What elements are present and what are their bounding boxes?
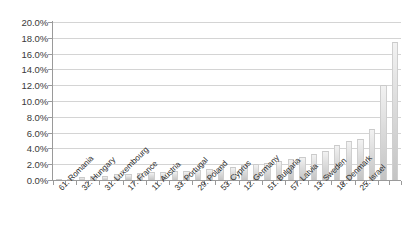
x-tick-mark [123,181,124,185]
x-tick-mark [355,181,356,185]
x-tick-mark [99,181,100,185]
y-tick-label: 10.0% [22,96,48,107]
y-tick-label: 16.0% [22,48,48,59]
x-tick-mark [146,181,147,185]
y-tick-label: 0.0% [27,175,48,186]
x-tick-mark [401,181,402,185]
bar-series [53,22,401,180]
x-tick-mark [308,181,309,185]
x-tick-mark [389,181,390,185]
y-tick-label: 6.0% [27,127,48,138]
x-tick-mark [285,181,286,185]
x-tick-mark [169,181,170,185]
y-tick-label: 4.0% [27,143,48,154]
y-tick-label: 20.0% [22,17,48,28]
y-tick-label: 2.0% [27,159,48,170]
y-tick-label: 18.0% [22,32,48,43]
x-tick-mark [378,181,379,185]
x-tick-mark [53,181,54,185]
plot-area [53,22,401,180]
x-tick-mark [76,181,77,185]
y-axis-labels: 0.0%2.0%4.0%6.0%8.0%10.0%12.0%14.0%16.0%… [0,15,52,181]
x-tick-mark [239,181,240,185]
x-axis-labels: 61. Romania32. Hungary31. Luxembourg17. … [0,186,408,250]
x-tick-mark [192,181,193,185]
x-tick-mark [331,181,332,185]
x-tick-mark [215,181,216,185]
y-axis-line [52,21,53,181]
y-tick-label: 14.0% [22,64,48,75]
y-tick-label: 12.0% [22,80,48,91]
bar-chart: 0.0%2.0%4.0%6.0%8.0%10.0%12.0%14.0%16.0%… [0,0,408,250]
x-tick-mark [262,181,263,185]
bar [392,42,398,180]
y-tick-label: 8.0% [27,111,48,122]
